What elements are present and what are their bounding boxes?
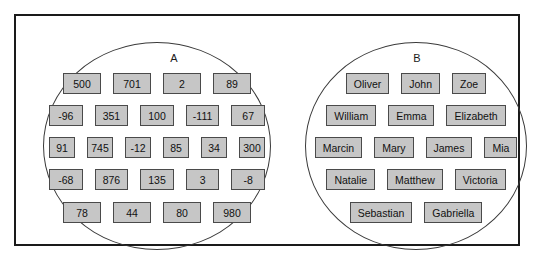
set-a-element[interactable]: 300 <box>239 137 265 158</box>
set-b-element[interactable]: Matthew <box>387 169 443 190</box>
set-a-element[interactable]: -12 <box>125 137 151 158</box>
set-b-element[interactable]: Gabriella <box>424 202 482 223</box>
set-a-row-2: -96 351 100 -111 67 <box>43 105 271 126</box>
set-b-element[interactable]: Elizabeth <box>446 105 505 126</box>
set-a-row-3: 91 745 -12 85 34 300 <box>43 137 271 158</box>
set-b-element[interactable]: Emma <box>388 105 434 126</box>
set-b-element[interactable]: John <box>401 73 440 94</box>
set-b-element[interactable]: Natalie <box>326 169 375 190</box>
set-a-element[interactable]: 34 <box>201 137 227 158</box>
set-a-row-4: -68 876 135 3 -8 <box>43 169 271 190</box>
set-b-element[interactable]: Mia <box>484 137 517 158</box>
set-a-element[interactable]: 67 <box>231 105 265 126</box>
set-b-element[interactable]: William <box>326 105 376 126</box>
set-a-element[interactable]: 80 <box>163 202 201 223</box>
set-b-element[interactable]: Zoe <box>452 73 486 94</box>
set-a-element[interactable]: -68 <box>49 169 83 190</box>
set-b-row-4: Natalie Matthew Victoria <box>305 169 527 190</box>
set-a-element[interactable]: 745 <box>87 137 113 158</box>
set-a-row-1: 500 701 2 89 <box>43 73 271 94</box>
set-b-row-1: Oliver John Zoe <box>305 73 527 94</box>
set-a-element[interactable]: 500 <box>63 73 101 94</box>
set-a-element[interactable]: 2 <box>163 73 201 94</box>
set-a-element[interactable]: 135 <box>140 169 174 190</box>
set-a-element[interactable]: 351 <box>95 105 129 126</box>
set-b-element[interactable]: Sebastian <box>350 202 413 223</box>
set-a-element[interactable]: 100 <box>140 105 174 126</box>
set-b-element[interactable]: Mary <box>374 137 413 158</box>
set-a-element[interactable]: 701 <box>113 73 151 94</box>
set-b-element[interactable]: James <box>426 137 473 158</box>
diagram-canvas: A 500 701 2 89 -96 351 100 -111 67 91 74… <box>0 0 534 261</box>
set-b-label: B <box>407 52 427 64</box>
set-b-element[interactable]: Marcin <box>315 137 363 158</box>
set-a-element[interactable]: 85 <box>163 137 189 158</box>
set-a-element[interactable]: 980 <box>213 202 251 223</box>
set-a-element[interactable]: 89 <box>213 73 251 94</box>
set-a-element[interactable]: 78 <box>63 202 101 223</box>
set-b-element[interactable]: Victoria <box>455 169 506 190</box>
diagram-frame: A 500 701 2 89 -96 351 100 -111 67 91 74… <box>14 14 520 246</box>
set-a-element[interactable]: 91 <box>49 137 75 158</box>
set-a-element[interactable]: 3 <box>186 169 220 190</box>
set-a-element[interactable]: 44 <box>113 202 151 223</box>
set-a-label: A <box>164 52 184 64</box>
set-a-element[interactable]: -96 <box>49 105 83 126</box>
set-b-element[interactable]: Oliver <box>346 73 389 94</box>
set-a-element[interactable]: 876 <box>95 169 129 190</box>
set-a-element[interactable]: -8 <box>231 169 265 190</box>
set-b-row-5: Sebastian Gabriella <box>305 202 527 223</box>
set-a-row-5: 78 44 80 980 <box>43 202 271 223</box>
set-b-row-3: Marcin Mary James Mia <box>305 137 527 158</box>
set-a-element[interactable]: -111 <box>186 105 220 126</box>
set-b-row-2: William Emma Elizabeth <box>305 105 527 126</box>
